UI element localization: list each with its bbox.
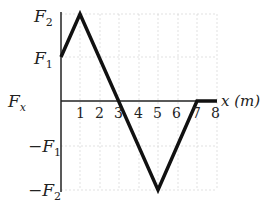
y-label-neg-F2: −F2: [28, 180, 61, 203]
svg-text:2: 2: [95, 105, 104, 121]
svg-text:4: 4: [134, 105, 143, 121]
x-axis-title: x (m): [221, 92, 260, 110]
y-label-F2: F2: [33, 6, 53, 29]
y-label-F1: F1: [33, 48, 53, 71]
svg-text:1: 1: [76, 105, 85, 121]
force-position-chart: F2 F1 Fx −F1 −F2 1 2 3 4 5 6 7 8 x (m): [0, 0, 269, 216]
y-label-neg-F1: −F1: [28, 136, 61, 159]
y-axis-title: Fx: [7, 91, 27, 114]
svg-text:5: 5: [153, 105, 162, 121]
svg-text:3: 3: [114, 105, 123, 121]
svg-text:8: 8: [211, 105, 220, 121]
grid: [61, 14, 217, 190]
svg-text:6: 6: [172, 105, 181, 121]
x-tick-labels: 1 2 3 4 5 6 7 8: [76, 105, 220, 121]
svg-text:7: 7: [192, 105, 201, 121]
